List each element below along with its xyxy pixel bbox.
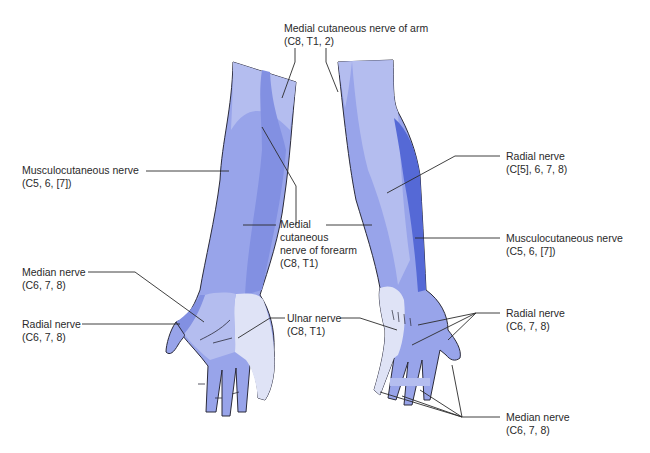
label-musculocutaneous-nerve-right: Musculocutaneous nerve (C5, 6, [7]) [506, 232, 623, 258]
label-name: Median nerve [22, 266, 86, 279]
label-name: Radial nerve [22, 318, 81, 331]
label-roots: (C8, T1) [287, 325, 341, 338]
label-roots: (C8, T1, 2) [284, 35, 428, 48]
label-roots: (C5, 6, [7]) [22, 177, 139, 190]
label-line1: Medial [280, 218, 357, 231]
label-ulnar-nerve: Ulnar nerve (C8, T1) [287, 312, 341, 338]
label-name: Musculocutaneous nerve [506, 232, 623, 245]
label-name: Radial nerve [506, 150, 567, 163]
label-name: Radial nerve [506, 307, 565, 320]
label-roots: (C6, 7, 8) [22, 279, 86, 292]
label-roots: (C6, 7, 8) [22, 331, 81, 344]
label-name: Musculocutaneous nerve [22, 164, 139, 177]
label-roots: (C8, T1) [280, 257, 357, 270]
label-radial-nerve-left: Radial nerve (C6, 7, 8) [22, 318, 81, 344]
label-line2: cutaneous [280, 231, 357, 244]
label-line3: nerve of forearm [280, 244, 357, 257]
label-name: Ulnar nerve [287, 312, 341, 325]
anterior-arm [166, 62, 296, 416]
label-roots: (C5, 6, [7]) [506, 245, 623, 258]
label-roots: (C[5], 6, 7, 8) [506, 163, 567, 176]
label-name: Medial cutaneous nerve of arm [284, 22, 428, 35]
label-median-nerve-right: Median nerve (C6, 7, 8) [506, 411, 570, 437]
median-zone-anterior [184, 293, 236, 360]
label-radial-nerve-hand-right: Radial nerve (C6, 7, 8) [506, 307, 565, 333]
label-roots: (C6, 7, 8) [506, 320, 565, 333]
label-medial-cutaneous-nerve-of-forearm: Medial cutaneous nerve of forearm (C8, T… [280, 218, 357, 270]
label-median-nerve-left: Median nerve (C6, 7, 8) [22, 266, 86, 292]
label-musculocutaneous-nerve-left: Musculocutaneous nerve (C5, 6, [7]) [22, 164, 139, 190]
label-medial-cutaneous-nerve-of-arm: Medial cutaneous nerve of arm (C8, T1, 2… [284, 22, 428, 48]
label-roots: (C6, 7, 8) [506, 424, 570, 437]
label-name: Median nerve [506, 411, 570, 424]
label-radial-nerve-upper-right: Radial nerve (C[5], 6, 7, 8) [506, 150, 567, 176]
